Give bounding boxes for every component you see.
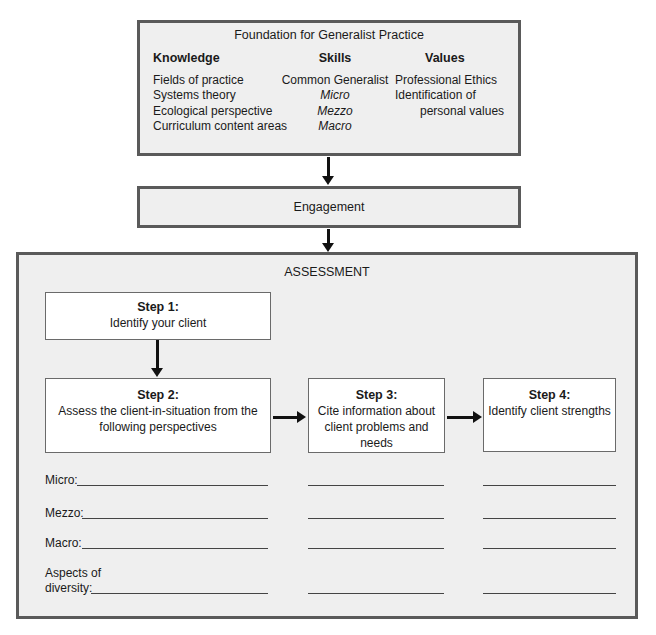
step-label: Step 3: <box>356 387 398 403</box>
skills-item: Micro <box>280 88 390 104</box>
knowledge-header: Knowledge <box>153 51 287 67</box>
answer-line[interactable] <box>308 518 444 519</box>
perspective-row-micro: Micro: <box>19 455 635 488</box>
foundation-title: Foundation for Generalist Practice <box>140 28 518 42</box>
knowledge-item: Ecological perspective <box>153 104 287 120</box>
arrow-down-icon <box>327 229 330 244</box>
engagement-box: Engagement <box>137 186 521 228</box>
values-item: personal values <box>395 104 504 120</box>
step-3-box: Step 3: Cite information about client pr… <box>308 378 445 453</box>
skills-item: Mezzo <box>280 104 390 120</box>
engagement-label: Engagement <box>294 200 365 214</box>
perspective-label: Mezzo: <box>45 506 84 521</box>
perspective-label: Aspects of <box>45 566 101 581</box>
values-item: Professional Ethics <box>395 73 504 89</box>
step-2-box: Step 2: Assess the client-in-situation f… <box>45 378 271 453</box>
perspective-row-mezzo: Mezzo: <box>19 488 635 521</box>
step-label: Step 1: <box>137 299 179 315</box>
step-label: Step 2: <box>137 387 179 403</box>
answer-line[interactable] <box>308 593 444 594</box>
skills-item: Macro <box>280 119 390 135</box>
arrow-down-icon <box>156 340 159 369</box>
values-header: Values <box>395 51 504 67</box>
skills-column: Skills Common Generalist Micro Mezzo Mac… <box>280 51 390 135</box>
step-1-box: Step 1: Identify your client <box>45 292 271 340</box>
answer-line[interactable] <box>483 485 616 486</box>
answer-line[interactable] <box>483 518 616 519</box>
assessment-box: ASSESSMENT Step 1: Identify your client … <box>16 252 638 619</box>
perspective-label: diversity: <box>45 581 92 596</box>
answer-line[interactable] <box>308 548 444 549</box>
values-item: Identification of <box>395 88 504 104</box>
perspective-label: Macro: <box>45 536 82 551</box>
knowledge-item: Fields of practice <box>153 73 287 89</box>
step-text: Identify your client <box>110 315 207 331</box>
answer-line[interactable] <box>77 485 268 486</box>
skills-header: Skills <box>280 51 390 67</box>
answer-line[interactable] <box>82 518 268 519</box>
step-text: Cite information about client problems a… <box>309 403 444 451</box>
perspective-row-macro: Macro: <box>19 521 635 551</box>
answer-line[interactable] <box>483 593 616 594</box>
perspective-label: Micro: <box>45 473 78 488</box>
assessment-title: ASSESSMENT <box>19 265 635 279</box>
answer-line[interactable] <box>483 548 616 549</box>
arrow-right-icon <box>447 416 474 419</box>
knowledge-item: Curriculum content areas <box>153 119 287 135</box>
skills-item: Common Generalist <box>280 73 390 89</box>
perspective-row-diversity: Aspects of diversity: <box>19 551 635 596</box>
step-text: Identify client strengths <box>488 403 611 419</box>
knowledge-item: Systems theory <box>153 88 287 104</box>
answer-line[interactable] <box>82 548 268 549</box>
step-4-box: Step 4: Identify client strengths <box>483 378 616 452</box>
step-text: Assess the client-in-situation from the … <box>46 403 270 435</box>
step-label: Step 4: <box>529 387 571 403</box>
values-column: Values Professional Ethics Identificatio… <box>395 51 504 119</box>
arrow-down-icon <box>327 157 330 177</box>
foundation-box: Foundation for Generalist Practice Knowl… <box>137 20 521 156</box>
answer-line[interactable] <box>91 593 268 594</box>
arrow-right-icon <box>273 416 298 419</box>
knowledge-column: Knowledge Fields of practice Systems the… <box>153 51 287 135</box>
answer-line[interactable] <box>308 485 444 486</box>
